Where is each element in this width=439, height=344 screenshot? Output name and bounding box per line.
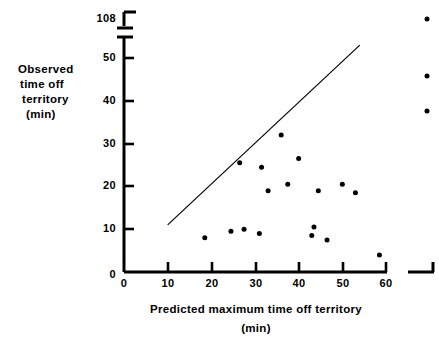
y-axis-title-line-3: territory [4, 92, 96, 107]
data-point [309, 233, 314, 238]
x-tick-label-30: 30 [235, 277, 277, 289]
data-point [202, 235, 207, 240]
data-point [311, 225, 316, 230]
outlier-data-point [425, 74, 430, 79]
x-tick-label-50: 50 [322, 277, 364, 289]
data-point [377, 252, 382, 257]
data-point [279, 133, 284, 138]
data-point [259, 165, 264, 170]
x-tick-label-60: 60 [365, 277, 407, 289]
data-point [353, 190, 358, 195]
data-point [266, 188, 271, 193]
identity-reference-line [168, 45, 360, 225]
axes [117, 12, 434, 272]
y-tick-label-20: 20 [64, 179, 116, 191]
y-tick-label-108: 108 [64, 12, 116, 24]
scatter-plot-figure: 108 50 40 30 20 10 0 0 10 20 30 40 50 60… [0, 0, 439, 344]
y-axis-title-line-1: Observed [4, 62, 96, 77]
data-point [296, 156, 301, 161]
y-axis-title: Observed time off territory (min) [4, 62, 96, 122]
y-tick-label-30: 30 [64, 137, 116, 149]
x-tick-label-10: 10 [147, 277, 189, 289]
data-points [202, 133, 382, 258]
data-point [237, 160, 242, 165]
x-tick-label-40: 40 [278, 277, 320, 289]
reference-line [168, 45, 360, 225]
data-point [228, 229, 233, 234]
outlier-data-point [425, 17, 430, 22]
data-point [257, 231, 262, 236]
y-axis-title-line-2: time off [4, 77, 96, 92]
data-point [242, 227, 247, 232]
data-point [325, 237, 330, 242]
data-point [340, 182, 345, 187]
data-point [316, 188, 321, 193]
x-tick-label-20: 20 [191, 277, 233, 289]
outlier-data-points [425, 17, 430, 114]
data-point [285, 182, 290, 187]
x-axis-title: Predicted maximum time off territory (mi… [96, 300, 416, 338]
y-axis-title-line-4: (min) [4, 107, 96, 122]
y-tick-label-10: 10 [64, 222, 116, 234]
outlier-data-point [425, 109, 430, 114]
x-axis-title-line-1: Predicted maximum time off territory [96, 300, 416, 319]
x-axis-title-line-2: (min) [96, 319, 416, 338]
x-tick-label-0: 0 [103, 277, 145, 289]
